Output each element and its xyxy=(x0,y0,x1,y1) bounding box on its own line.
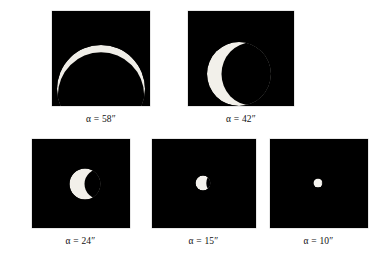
panel-caption-1: α = 58″ xyxy=(86,115,116,125)
venus-disk-thin-crescent xyxy=(52,11,150,106)
venus-disk-near-full xyxy=(270,139,368,228)
venus-panel-3: α = 24″ xyxy=(21,139,140,259)
venus-panel-2: α = 42″ xyxy=(181,11,301,131)
venus-panel-1: α = 58″ xyxy=(21,11,181,131)
venus-panel-4: α = 15″ xyxy=(140,139,267,259)
sky-field-1 xyxy=(52,11,150,106)
venus-panel-5: α = 10″ xyxy=(267,139,370,259)
panel-caption-5: α = 10″ xyxy=(304,237,334,247)
sky-field-4 xyxy=(152,139,256,228)
venus-disk-gibbous xyxy=(152,139,256,228)
panel-caption-3: α = 24″ xyxy=(66,237,96,247)
panel-caption-4: α = 15″ xyxy=(189,237,219,247)
venus-phases-figure: α = 58″ α = 42″ xyxy=(0,0,370,261)
panel-row-bottom: α = 24″ α = 15″ xyxy=(0,139,370,259)
venus-disk-crescent xyxy=(188,11,294,106)
panel-row-top: α = 58″ α = 42″ xyxy=(0,11,370,131)
sky-field-3 xyxy=(32,139,130,228)
sky-field-5 xyxy=(270,139,368,228)
sky-field-2 xyxy=(188,11,294,106)
panel-caption-2: α = 42″ xyxy=(226,115,256,125)
venus-disk-quarter xyxy=(32,139,130,228)
